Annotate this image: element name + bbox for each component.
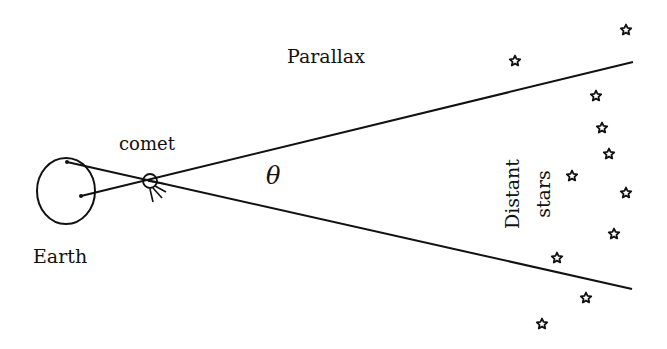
- earth-label: Earth: [33, 245, 87, 267]
- star-icon: [604, 149, 614, 159]
- title-label: Parallax: [287, 45, 365, 67]
- star-icon: [621, 188, 631, 198]
- star-icon: [621, 25, 631, 35]
- angle-theta-label: θ: [266, 162, 281, 190]
- earth-circle: [37, 158, 95, 224]
- parallax-diagram: Parallax comet Earth θ Distant stars: [0, 0, 667, 349]
- star-icon: [591, 91, 601, 101]
- distant-stars: [510, 25, 631, 329]
- star-icon: [567, 171, 577, 181]
- star-icon: [552, 253, 562, 263]
- comet-label: comet: [119, 133, 176, 154]
- star-icon: [609, 229, 619, 239]
- star-icon: [581, 293, 591, 303]
- distant-label: Distant: [501, 159, 523, 229]
- stars-label: stars: [532, 170, 554, 218]
- star-icon: [537, 319, 547, 329]
- star-icon: [510, 56, 520, 66]
- star-icon: [597, 123, 607, 133]
